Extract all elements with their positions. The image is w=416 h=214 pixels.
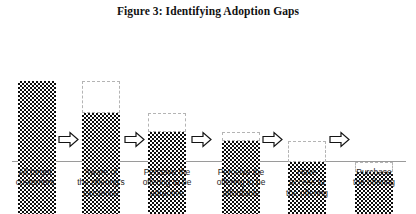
bar-solid-fill [82,113,120,214]
arrow-right-icon [262,131,283,148]
bar-group [355,53,393,214]
arrow-right-icon [58,131,79,148]
bar-label: Perceive the offering to be affordable [206,167,276,198]
bar-label: All target customers [0,167,70,188]
bar-label: Perceive the offering to be attractive [132,167,202,198]
figure-container: Figure 3: Identifying Adoption Gaps [0,0,416,214]
chart-baseline [12,161,406,162]
bar-gap-outline [148,113,186,132]
bar-group [18,53,56,214]
arrow-right-icon [329,131,350,148]
bar-label: Purchase the offering [339,167,409,188]
chart-plot-area: All target customers Aware of the offeri… [0,0,416,214]
arrow-right-icon [191,131,212,148]
bar-gap-outline [288,141,326,162]
bar-label: Have access to the offering [272,167,342,198]
bar-solid-fill [18,81,56,214]
arrow-right-icon [124,131,145,148]
bar-gap-outline [82,81,120,113]
bar-label: Aware of the offering's existence [66,167,136,198]
bar-gap-outline [222,132,260,141]
